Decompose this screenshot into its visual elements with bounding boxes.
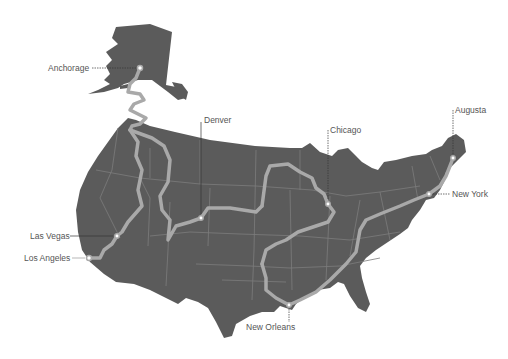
city-label-los-angeles: Los Angeles [24, 253, 70, 263]
contiguous-us-landmass [76, 118, 466, 338]
city-label-las-vegas: Las Vegas [30, 231, 70, 241]
city-label-new-york: New York [452, 189, 488, 199]
city-label-anchorage: Anchorage [48, 63, 89, 73]
marker-augusta [451, 156, 455, 160]
city-label-denver: Denver [204, 115, 231, 125]
city-label-augusta: Augusta [455, 105, 486, 115]
city-label-new-orleans: New Orleans [246, 322, 295, 332]
marker-anchorage [138, 66, 143, 71]
alaska-landmass [88, 24, 186, 100]
marker-las-vegas [115, 234, 119, 238]
marker-new-orleans [287, 303, 291, 307]
marker-los-angeles [87, 256, 92, 261]
marker-denver [199, 216, 203, 220]
marker-chicago [326, 202, 330, 206]
marker-new-york [427, 192, 431, 196]
city-label-chicago: Chicago [330, 125, 361, 135]
us-route-map [0, 0, 508, 359]
